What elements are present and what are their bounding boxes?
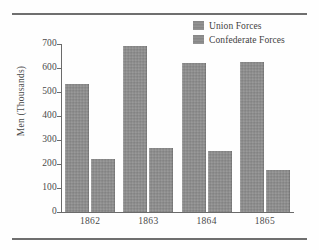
y-axis-tick-label: 200 — [17, 159, 57, 169]
x-axis-tick-label-1862: 1862 — [61, 216, 119, 226]
chart-figure: Union Forces Confederate Forces 01002003… — [0, 0, 319, 250]
legend-item-union: Union Forces — [193, 20, 313, 31]
x-axis-tick-label-1865: 1865 — [236, 216, 294, 226]
legend-label-confederate: Confederate Forces — [209, 35, 285, 45]
bar-union-forces-1864 — [182, 63, 206, 212]
bar-union-forces-1862 — [65, 84, 89, 212]
legend-swatch-icon-confederate — [193, 35, 204, 44]
y-axis-tick — [57, 212, 62, 213]
x-axis-tick-label-1864: 1864 — [178, 216, 236, 226]
bar-confederate-forces-1862 — [91, 159, 115, 212]
bar-confederate-forces-1864 — [208, 151, 232, 212]
bar-confederate-forces-1865 — [266, 170, 290, 212]
bar-confederate-forces-1863 — [149, 148, 173, 212]
x-axis-labels: 1862186318641865 — [61, 216, 294, 232]
y-axis-title: Men (Thousands) — [16, 46, 26, 156]
bar-union-forces-1865 — [240, 62, 264, 212]
legend-swatch-icon-union — [193, 21, 204, 30]
y-axis-tick-label: 0 — [17, 207, 57, 217]
bar-union-forces-1863 — [123, 46, 147, 212]
bars-layer — [62, 44, 294, 212]
legend-label-union: Union Forces — [209, 21, 262, 31]
y-axis-tick-label: 100 — [17, 183, 57, 193]
x-axis-tick-label-1863: 1863 — [119, 216, 177, 226]
x-axis-line — [61, 212, 294, 213]
